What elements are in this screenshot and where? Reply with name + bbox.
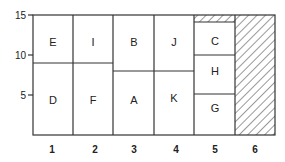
cell-label-g: G <box>211 102 220 114</box>
block-diagram: E D I F B A J K C H G 15 10 5 1 2 3 4 5 … <box>0 0 285 162</box>
cell-label-k: K <box>170 92 178 104</box>
cell-label-c: C <box>211 35 219 47</box>
cell-label-e: E <box>49 36 56 48</box>
y-tick-5: 5 <box>20 90 26 101</box>
cell-label-h: H <box>211 65 219 77</box>
x-label-4: 4 <box>173 144 179 155</box>
hatched-region-col6 <box>235 15 275 135</box>
cell-label-b: B <box>130 36 137 48</box>
x-label-1: 1 <box>49 144 55 155</box>
cell-label-i: I <box>91 36 94 48</box>
cell-label-f: F <box>90 94 97 106</box>
x-label-6: 6 <box>252 144 258 155</box>
x-label-3: 3 <box>131 144 137 155</box>
x-label-5: 5 <box>212 144 218 155</box>
y-tick-10: 10 <box>15 50 27 61</box>
cell-label-d: D <box>49 94 57 106</box>
cell-label-a: A <box>130 94 138 106</box>
column-dividers <box>28 15 235 135</box>
y-tick-15: 15 <box>15 10 27 21</box>
cell-label-j: J <box>171 36 177 48</box>
x-label-2: 2 <box>92 144 98 155</box>
hatched-region-col5-top <box>194 15 235 22</box>
